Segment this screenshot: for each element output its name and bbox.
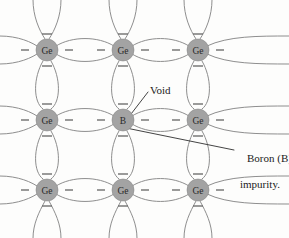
atom-symbol: Ge (41, 116, 52, 126)
atom-symbol: Ge (117, 186, 128, 196)
atom-symbol: Ge (41, 46, 52, 56)
atom-a-2-2[interactable]: Ge (187, 179, 209, 201)
atom-symbol: Ge (192, 46, 203, 56)
atom-symbol: Ge (192, 116, 203, 126)
atom-boron-impurity[interactable]: B (112, 109, 134, 131)
atom-symbol: Ge (41, 186, 52, 196)
void-annotation-label: Void (150, 84, 171, 97)
boron-annotation-line1: Boron (B) (247, 152, 289, 164)
atom-a-2-1[interactable]: Ge (112, 179, 134, 201)
atom-a-0-1[interactable]: Ge (112, 39, 134, 61)
boron-leader-line (126, 128, 234, 150)
atom-a-1-2[interactable]: Ge (187, 109, 209, 131)
atom-a-2-0[interactable]: Ge (36, 179, 58, 201)
atom-symbol: Ge (192, 186, 203, 196)
atom-a-1-0[interactable]: Ge (36, 109, 58, 131)
atom-symbol: B (120, 116, 126, 126)
atom-symbol: Ge (117, 46, 128, 56)
atom-a-0-2[interactable]: Ge (187, 39, 209, 61)
boron-annotation-label: Boron (B) impurity. (236, 139, 289, 217)
boron-annotation-line2: impurity. (236, 178, 289, 191)
atom-a-0-0[interactable]: Ge (36, 39, 58, 61)
lattice-diagram: Ge Ge Ge Ge B Ge Ge Ge (0, 0, 289, 238)
